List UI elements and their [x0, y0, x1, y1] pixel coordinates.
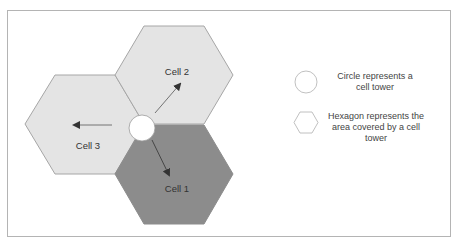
cellular-coverage-diagram: Cell 2 Cell 3 Cell 1 Circle represents a…: [0, 0, 461, 246]
cell-1-label: Cell 1: [165, 183, 189, 194]
legend-item-circle: Circle represents a cell tower: [325, 71, 425, 93]
cell-tower-circle: [129, 115, 155, 141]
legend-hexagon-text-line3: tower: [318, 133, 434, 144]
cell-2-label: Cell 2: [165, 66, 189, 77]
legend-hexagon-text-line1: Hexagon represents the: [318, 111, 434, 122]
legend-hexagon-icon: [294, 112, 318, 133]
cell-3-label: Cell 3: [76, 140, 100, 151]
legend-circle-icon: [295, 71, 317, 93]
legend-circle-text-line2: cell tower: [325, 82, 425, 93]
legend-circle-text-line1: Circle represents a: [325, 71, 425, 82]
legend-item-hexagon: Hexagon represents the area covered by a…: [318, 111, 434, 144]
legend-hexagon-text-line2: area covered by a cell: [318, 122, 434, 133]
